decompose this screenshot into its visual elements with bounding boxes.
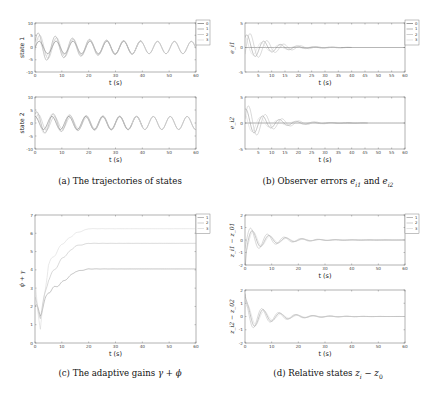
legend: 0123 (405, 20, 419, 45)
x-tick-label: 50 (376, 73, 382, 78)
x-axis-label: t (s) (109, 79, 122, 87)
x-tick-label: 20 (86, 344, 92, 349)
chart-c: 010203040506001234567t (s)ϕ + γ123 (18, 213, 210, 359)
y-tick-label: 4 (30, 267, 33, 272)
x-tick-label: 25 (309, 73, 315, 78)
y-tick-label: 2 (240, 213, 243, 218)
x-tick-label: 0 (244, 344, 247, 349)
x-tick-label: 55 (389, 73, 395, 78)
chart-b2: 51015202530354045505560-505t (s)e_i2 (228, 95, 408, 165)
x-tick-label: 40 (349, 344, 355, 349)
x-tick-label: 10 (59, 150, 65, 155)
x-tick-label: 40 (140, 150, 146, 155)
x-tick-label: 40 (140, 73, 146, 78)
y-tick-label: 5 (30, 33, 33, 38)
caption-c-text: (c) The adaptive gains (58, 368, 158, 378)
x-tick-label: 10 (269, 73, 275, 78)
y-tick-label: -1 (239, 250, 244, 255)
x-tick-label: 15 (282, 73, 288, 78)
x-tick-label: 30 (113, 73, 119, 78)
y-tick-label: 10 (28, 95, 34, 100)
y-tick-label: 2 (240, 288, 243, 293)
y-tick-label: 0 (30, 121, 33, 126)
y-tick-label: 1 (240, 225, 243, 230)
y-tick-label: -5 (239, 70, 244, 75)
x-tick-label: 60 (402, 73, 408, 78)
axes-box (35, 23, 196, 72)
caption-d: (d) Relative states zi − z0 (228, 368, 428, 380)
x-tick-label: 60 (402, 266, 408, 271)
caption-b: (b) Observer errors ei1 and ei2 (228, 176, 428, 188)
x-tick-label: 5 (257, 150, 260, 155)
x-tick-label: 45 (362, 73, 368, 78)
x-tick-label: 60 (402, 150, 408, 155)
x-axis-label: t (s) (318, 272, 331, 280)
x-tick-label: 10 (59, 73, 65, 78)
y-tick-label: 6 (30, 231, 33, 236)
y-tick-label: 5 (240, 21, 243, 26)
y-tick-label: -10 (26, 147, 33, 152)
chart-d2: 0102030405060-2-1012t (s)z_i2 − z_02 (228, 288, 408, 359)
x-tick-label: 60 (402, 344, 408, 349)
x-tick-label: 35 (336, 73, 342, 78)
figure-canvas: 0102030405060-10-50510t (s)state 1012301… (0, 0, 443, 399)
x-axis-label: t (s) (109, 156, 122, 164)
y-tick-label: 3 (30, 286, 33, 291)
y-tick-label: -2 (239, 341, 244, 346)
x-axis-label: t (s) (109, 350, 122, 358)
caption-c-math: γ + ϕ (158, 368, 182, 378)
x-tick-label: 0 (244, 266, 247, 271)
y-tick-label: 2 (30, 304, 33, 309)
x-tick-label: 50 (376, 344, 382, 349)
x-tick-label: 55 (389, 150, 395, 155)
x-tick-label: 60 (193, 150, 199, 155)
chart-a1: 0102030405060-10-50510t (s)state 10123 (18, 20, 210, 87)
y-tick-label: -1 (239, 327, 244, 332)
y-axis-label: e_i1 (228, 41, 236, 53)
caption-b-and: and (361, 176, 383, 186)
y-tick-label: 0 (240, 45, 243, 50)
x-tick-label: 30 (113, 150, 119, 155)
x-tick-label: 50 (376, 266, 382, 271)
y-tick-label: 10 (28, 21, 34, 26)
y-axis-label: z_i1 − z_01 (228, 223, 236, 259)
x-tick-label: 50 (376, 150, 382, 155)
x-tick-label: 35 (336, 150, 342, 155)
caption-d-minus: − (362, 368, 375, 378)
x-tick-label: 40 (349, 266, 355, 271)
x-tick-label: 10 (59, 344, 65, 349)
x-tick-label: 0 (34, 150, 37, 155)
x-tick-label: 10 (269, 266, 275, 271)
legend: 123 (196, 214, 210, 234)
caption-a: (a) The trajectories of states (20, 176, 220, 186)
x-tick-label: 40 (349, 150, 355, 155)
x-tick-label: 20 (296, 266, 302, 271)
x-tick-label: 15 (282, 150, 288, 155)
y-tick-label: -5 (239, 147, 244, 152)
y-tick-label: 1 (30, 322, 33, 327)
y-tick-label: -10 (26, 70, 33, 75)
chart-a2: 0102030405060-10-50510t (s)state 2 (18, 95, 199, 165)
x-tick-label: 20 (296, 150, 302, 155)
x-tick-label: 60 (193, 344, 199, 349)
y-tick-label: -5 (29, 57, 34, 62)
x-tick-label: 30 (113, 344, 119, 349)
x-tick-label: 40 (140, 344, 146, 349)
y-axis-label: e_i2 (228, 117, 236, 129)
x-tick-label: 10 (269, 150, 275, 155)
y-tick-label: 0 (240, 314, 243, 319)
x-tick-label: 20 (86, 150, 92, 155)
caption-b-text: (b) Observer errors (263, 176, 351, 186)
y-tick-label: 5 (30, 108, 33, 113)
y-tick-label: -2 (239, 263, 244, 268)
caption-c: (c) The adaptive gains γ + ϕ (20, 368, 220, 378)
y-axis-label: state 2 (18, 112, 25, 133)
x-axis-label: t (s) (318, 156, 331, 164)
x-tick-label: 50 (166, 344, 172, 349)
caption-d-sub2: 0 (379, 373, 383, 380)
y-tick-label: 5 (30, 249, 33, 254)
legend: 0123 (196, 20, 210, 45)
x-tick-label: 5 (257, 73, 260, 78)
x-tick-label: 10 (269, 344, 275, 349)
x-tick-label: 30 (322, 266, 328, 271)
